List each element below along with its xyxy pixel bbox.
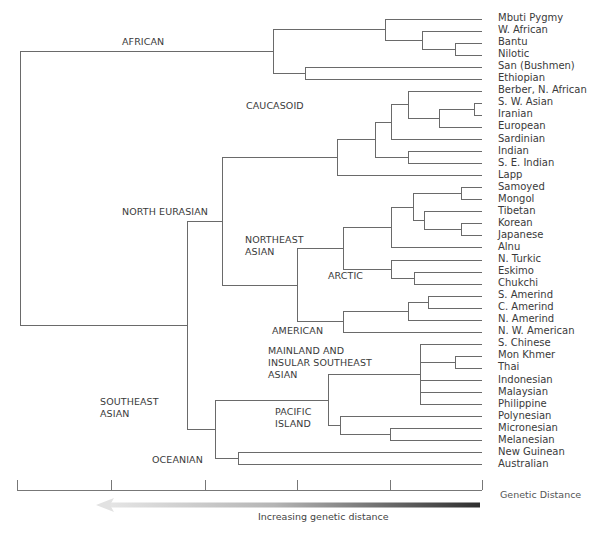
leaf-label: S. Chinese <box>498 337 551 349</box>
leaf-label: Indonesian <box>498 374 553 386</box>
leaf-label: Berber, N. African <box>498 84 587 96</box>
leaf-label: Indian <box>498 145 529 157</box>
leaf-label: Melanesian <box>498 434 555 446</box>
arrow-shaft <box>106 503 480 508</box>
leaf-label: N. W. American <box>498 325 575 337</box>
leaf-label: European <box>498 120 546 132</box>
clade-label: NORTH EURASIAN <box>122 206 208 218</box>
leaf-label: Nilotic <box>498 48 529 60</box>
leaf-label: Alnu <box>498 241 520 253</box>
leaf-label: Bantu <box>498 36 528 48</box>
leaf-label: Chukchi <box>498 277 538 289</box>
leaf-label: San (Bushmen) <box>498 60 575 72</box>
clade-label: AMERICAN <box>272 325 323 337</box>
leaf-label: Malaysian <box>498 386 548 398</box>
leaf-label: Japanese <box>498 229 543 241</box>
leaf-label: N. Turkic <box>498 253 541 265</box>
leaf-label: Philippine <box>498 398 547 410</box>
leaf-label: W. African <box>498 24 548 36</box>
leaf-label: Micronesian <box>498 422 558 434</box>
leaf-label: S. Amerind <box>498 289 553 301</box>
leaf-label: N. Amerind <box>498 313 554 325</box>
leaf-label: C. Amerind <box>498 301 554 313</box>
leaf-label: S. E. Indian <box>498 157 554 169</box>
clade-label: PACIFIC ISLAND <box>275 406 312 430</box>
clade-label: MAINLAND AND INSULAR SOUTHEAST ASIAN <box>268 345 372 381</box>
leaf-label: Korean <box>498 217 533 229</box>
leaf-label: S. W. Asian <box>498 96 553 108</box>
leaf-label: Lapp <box>498 169 522 181</box>
leaf-label: Mon Khmer <box>498 349 555 361</box>
leaf-label: Mbuti Pygmy <box>498 12 563 24</box>
clade-label: CAUCASOID <box>246 100 304 112</box>
leaf-label: New Guinean <box>498 446 565 458</box>
clade-label: OCEANIAN <box>152 454 203 466</box>
arrow-caption: Increasing genetic distance <box>258 511 389 522</box>
genetic-distance-scale-bar <box>17 480 482 490</box>
leaf-label: Iranian <box>498 108 533 120</box>
leaf-label: Mongol <box>498 193 534 205</box>
clade-label: NORTHEAST ASIAN <box>245 234 304 258</box>
scale-bar-title: Genetic Distance <box>500 489 581 500</box>
leaf-label: Tibetan <box>498 205 535 217</box>
clade-label: AFRICAN <box>122 36 164 48</box>
leaf-label: Sardinian <box>498 133 545 145</box>
increasing-distance-arrow <box>96 498 480 512</box>
clade-label: SOUTHEAST ASIAN <box>100 396 159 420</box>
leaf-label: Eskimo <box>498 265 534 277</box>
leaf-label: Polynesian <box>498 410 551 422</box>
clade-label: ARCTIC <box>328 270 363 282</box>
leaf-label: Australian <box>498 458 549 470</box>
leaf-label: Thai <box>498 361 519 373</box>
leaf-label: Ethiopian <box>498 72 545 84</box>
leaf-label: Samoyed <box>498 181 545 193</box>
